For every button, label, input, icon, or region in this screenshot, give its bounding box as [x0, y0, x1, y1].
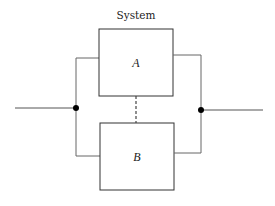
- output-junction-node: [198, 107, 204, 113]
- left-branch-connector: [76, 58, 100, 156]
- parallel-system-diagram: System A B: [0, 0, 275, 206]
- right-branch-connector: [173, 55, 201, 153]
- component-a: A: [99, 29, 173, 96]
- system-title: System: [117, 9, 156, 21]
- component-b: B: [100, 123, 174, 190]
- input-junction-node: [73, 105, 79, 111]
- component-a-label: A: [131, 56, 140, 70]
- component-b-label: B: [133, 150, 141, 164]
